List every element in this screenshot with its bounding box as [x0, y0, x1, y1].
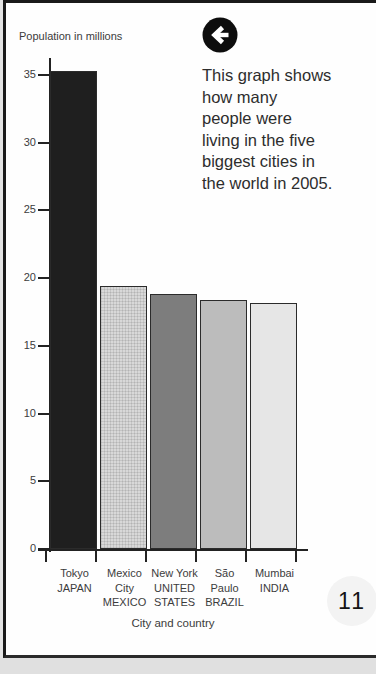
x-label: MexicoCityMEXICO: [100, 566, 150, 610]
y-tick-mark: [38, 413, 49, 415]
x-label: SãoPauloBRAZIL: [200, 566, 250, 610]
y-tick-label: 10: [10, 407, 36, 419]
y-tick-label: 5: [10, 474, 36, 486]
x-tick-mark: [295, 550, 297, 562]
y-axis-title: Population in millions: [19, 30, 122, 42]
x-label-line: BRAZIL: [200, 595, 250, 610]
x-label-line: Mexico: [100, 566, 150, 581]
x-label-line: MEXICO: [100, 595, 150, 610]
annotation-line: the world in 2005.: [202, 173, 372, 195]
y-tick-mark: [38, 345, 49, 347]
bar-são: [200, 300, 247, 549]
y-tick-mark: [38, 74, 49, 76]
x-label-line: Tokyo: [50, 566, 100, 581]
y-tick-mark: [38, 548, 49, 550]
bar-tokyo: [50, 71, 97, 549]
x-tick-mark: [195, 550, 197, 562]
bar-mexico: [100, 286, 147, 549]
y-tick-mark: [38, 480, 49, 482]
y-tick-mark: [38, 142, 49, 144]
x-label-line: JAPAN: [50, 581, 100, 596]
x-axis-line: [38, 549, 308, 551]
y-tick-label: 25: [10, 203, 36, 215]
x-label: New YorkUNITEDSTATES: [150, 566, 200, 610]
x-label-line: INDIA: [250, 581, 300, 596]
x-label-line: City: [100, 581, 150, 596]
bar-new: [150, 294, 197, 549]
annotation-line: how many: [202, 87, 372, 109]
x-label-line: UNITED: [150, 581, 200, 596]
x-axis-title: City and country: [38, 617, 308, 629]
annotation-block: This graph showshow manypeople werelivin…: [202, 17, 372, 194]
y-tick-label: 30: [10, 136, 36, 148]
x-label: TokyoJAPAN: [50, 566, 100, 595]
page-number: 11: [338, 588, 366, 615]
annotation-line: living in the five: [202, 130, 372, 152]
x-label-line: São: [200, 566, 250, 581]
x-label-line: New York: [150, 566, 200, 581]
left-arrow-icon: [202, 17, 372, 57]
x-label-line: Paulo: [200, 581, 250, 596]
bar-mumbai: [250, 303, 297, 549]
book-page: Population in millions 05101520253035 To…: [0, 0, 376, 674]
annotation-text: This graph showshow manypeople werelivin…: [202, 65, 372, 194]
y-tick-label: 15: [10, 339, 36, 351]
x-tick-mark: [145, 550, 147, 562]
y-tick-label: 0: [10, 542, 36, 554]
page-number-badge: 11: [327, 576, 376, 626]
x-tick-mark: [45, 550, 47, 562]
y-tick-mark: [38, 277, 49, 279]
x-label: MumbaiINDIA: [250, 566, 300, 595]
y-tick-label: 35: [10, 68, 36, 80]
x-label-line: Mumbai: [250, 566, 300, 581]
x-tick-mark: [245, 550, 247, 562]
annotation-line: This graph shows: [202, 65, 372, 87]
y-tick-mark: [38, 209, 49, 211]
x-label-line: STATES: [150, 595, 200, 610]
y-tick-label: 20: [10, 271, 36, 283]
annotation-line: people were: [202, 108, 372, 130]
x-tick-mark: [95, 550, 97, 562]
annotation-line: biggest cities in: [202, 151, 372, 173]
